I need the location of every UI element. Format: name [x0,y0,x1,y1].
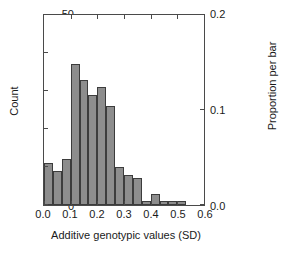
x-axis-title: Additive genotypic values (SD) [0,229,252,241]
y-axis-tick-left [44,90,48,91]
histogram-bar [133,178,142,205]
histogram-bar [124,175,133,205]
histogram-figure: 0 10 20 30 40 50 0.0 0.1 0.2 0.0 0.1 0.2… [0,0,282,253]
histogram-bars [44,15,204,205]
histogram-bar [115,167,124,205]
histogram-bar [151,194,160,205]
plot-area [43,14,205,206]
x-axis-tick-top [71,15,72,19]
x-axis-tick-top [97,15,98,19]
x-axis-tick-top [124,15,125,19]
histogram-bar [177,201,186,205]
y-axis-title-secondary: Proportion per bar [266,26,278,146]
y-axis-tick-right [200,14,204,15]
x-axis-tick-bottom [204,201,205,205]
x-axis-tick-bottom [97,201,98,205]
x-axis-tick-top [177,15,178,19]
histogram-bar [62,159,71,205]
y-axis-tick-left [44,166,48,167]
y-axis-tick-label-right: 0.2 [210,9,242,20]
histogram-bar [44,163,53,205]
y-axis-tick-right [200,109,204,110]
histogram-bar [142,201,151,205]
histogram-bar [71,64,80,205]
histogram-bar [106,106,115,205]
histogram-bar [160,201,169,205]
y-axis-tick-left [44,52,48,53]
x-axis-tick-bottom [44,201,45,205]
y-axis-tick-left [44,14,48,15]
y-axis-title: Count [8,71,20,131]
histogram-bar [80,80,89,205]
x-axis-tick-bottom [177,201,178,205]
histogram-bar [88,95,97,205]
histogram-bar [97,87,106,205]
y-axis-tick-left [44,128,48,129]
histogram-bar [168,201,177,205]
x-axis-tick-bottom [71,201,72,205]
x-axis-tick-top [151,15,152,19]
x-axis-tick-label: 0.6 [188,209,222,220]
x-axis-tick-bottom [124,201,125,205]
histogram-bar [53,171,62,205]
x-axis-tick-bottom [151,201,152,205]
y-axis-tick-label-right: 0.1 [210,105,242,116]
